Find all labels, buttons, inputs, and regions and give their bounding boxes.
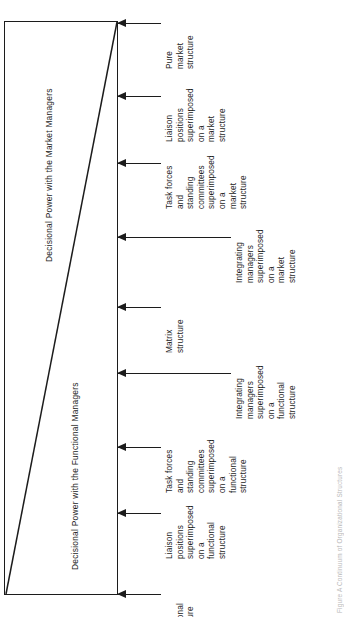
arrow-line-icon: [118, 373, 231, 374]
arrow-line-icon: [118, 237, 231, 238]
arrow-head-icon: [117, 509, 126, 517]
arrow-head-icon: [117, 590, 126, 598]
arrow-head-icon: [117, 233, 126, 241]
arrow-head-icon: [117, 443, 126, 451]
arrow-head-icon: [117, 92, 126, 100]
arrow-head-icon: [117, 19, 126, 27]
arrow-head-icon: [117, 303, 126, 311]
figure-canvas: Decisional Power with the Market Manager…: [0, 0, 344, 617]
continuum-box: [4, 21, 118, 595]
arrow-head-icon: [117, 369, 126, 377]
figure-caption: Figure A Continuum of Organizational Str…: [336, 466, 343, 613]
region-label-market: Decisional Power with the Market Manager…: [44, 88, 54, 262]
region-label-functional: Decisional Power with the Functional Man…: [70, 382, 80, 570]
arrow-head-icon: [117, 159, 126, 167]
